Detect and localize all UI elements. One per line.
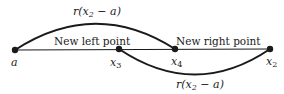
new-right-point-label: New right point xyxy=(176,35,261,47)
label-x2: x2 xyxy=(266,55,277,69)
label-x3: x3 xyxy=(110,56,121,70)
bottom-arc-label: r(x2 − a) xyxy=(176,78,224,92)
label-x4: x4 xyxy=(171,55,182,69)
bottom-arc xyxy=(119,49,270,75)
point-x2 xyxy=(267,46,273,52)
label-a: a xyxy=(11,56,18,69)
golden-section-diagram: r(x2 − a) New left point New right point… xyxy=(0,0,284,94)
baseline-segment xyxy=(15,49,270,50)
new-left-point-label: New left point xyxy=(54,35,131,47)
top-arc-label: r(x2 − a) xyxy=(73,5,121,19)
point-a xyxy=(12,47,18,53)
